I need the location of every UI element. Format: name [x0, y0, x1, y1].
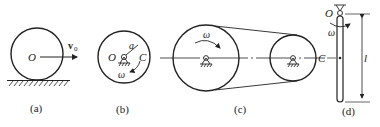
pivot-support-icon — [118, 54, 130, 66]
label-pivot-o: O — [108, 51, 116, 63]
caption-c: (c) — [234, 103, 247, 116]
pivot-support-small-icon — [287, 56, 299, 67]
figure-c: ω (c) — [160, 25, 325, 116]
rod-pivot-icon — [334, 5, 346, 16]
figure-b: O a C ω (b) — [98, 31, 150, 116]
label-omega-c: ω — [203, 29, 210, 40]
diagram-canvas: O v 0 (a) O a C ω (b) — [0, 0, 380, 127]
label-omega-d: ω — [328, 27, 335, 38]
disk-a — [11, 28, 63, 80]
caption-b: (b) — [116, 103, 129, 116]
label-offset-a: a — [129, 40, 134, 51]
pivot-support-large-icon — [200, 56, 212, 67]
omega-arrow-c — [195, 40, 220, 48]
ground-hatch — [9, 81, 68, 86]
figure-a: O v 0 (a) — [7, 28, 78, 115]
figure-d: O ω C l (d) — [318, 5, 370, 118]
label-velocity-subscript: 0 — [74, 45, 78, 53]
label-rod-c: C — [318, 52, 326, 64]
label-length-l: l — [364, 52, 367, 64]
label-mass-center-c: C — [139, 51, 147, 63]
rod-mass-center-dot — [339, 57, 342, 60]
caption-d: (d) — [342, 105, 355, 118]
caption-a: (a) — [30, 102, 43, 115]
label-rod-pivot-o: O — [325, 7, 333, 19]
label-center-o: O — [28, 51, 36, 63]
label-velocity: v — [68, 40, 73, 51]
label-omega-b: ω — [118, 69, 125, 80]
